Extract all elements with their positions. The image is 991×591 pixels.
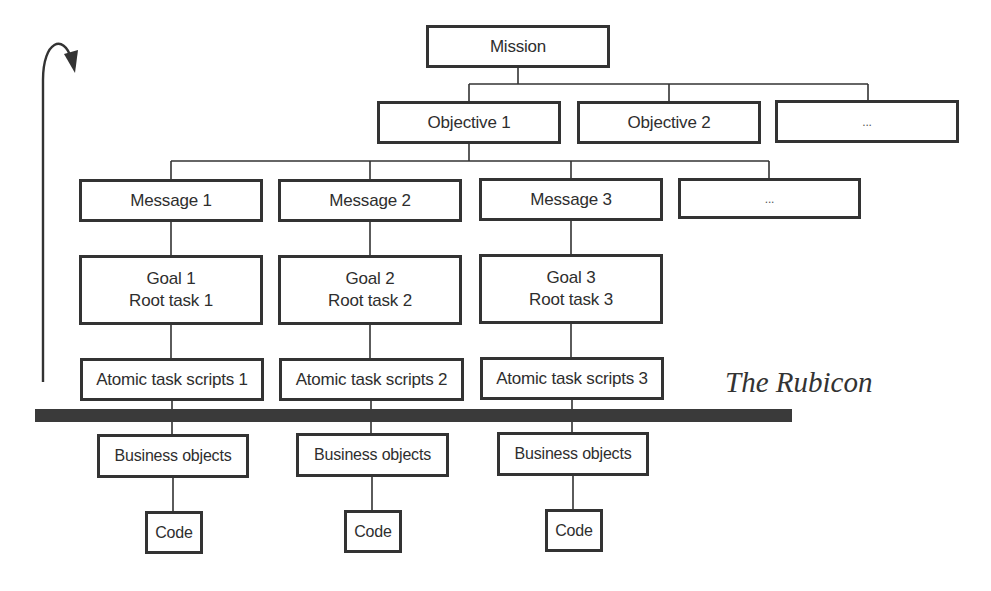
objective-box-1: Objective 1 [377,101,561,144]
goal-box-2: Goal 2 Root task 2 [278,255,462,325]
message-box-1: Message 1 [79,179,263,222]
code-box-1: Code [145,511,203,554]
message-box-2: Message 2 [278,179,462,222]
message-label: Message 3 [530,189,611,211]
objective-box-more: ... [775,100,959,143]
objective-box-2: Objective 2 [577,101,761,144]
root-task-label: Root task 1 [129,290,213,312]
business-objects-box-2: Business objects [296,433,449,477]
objective-label: ... [862,111,871,133]
business-objects-box-1: Business objects [97,434,249,478]
message-label: Message 2 [329,190,410,212]
atomic-scripts-box-3: Atomic task scripts 3 [480,357,664,400]
atomic-scripts-box-1: Atomic task scripts 1 [80,358,264,401]
atomic-scripts-label: Atomic task scripts 2 [296,369,448,391]
code-box-2: Code [344,510,402,553]
message-box-3: Message 3 [479,178,663,221]
rubicon-divider [35,409,792,422]
goal-label: Goal 2 [346,268,395,290]
code-label: Code [555,520,592,542]
code-label: Code [354,521,391,543]
objective-label: Objective 2 [628,112,711,134]
root-task-label: Root task 2 [328,290,412,312]
mission-box: Mission [426,25,610,68]
business-objects-label: Business objects [115,445,232,467]
message-label: Message 1 [130,190,211,212]
feedback-arrow-icon [43,44,78,382]
business-objects-label: Business objects [314,444,431,466]
goal-label: Goal 3 [547,267,596,289]
atomic-scripts-label: Atomic task scripts 3 [496,368,648,390]
message-box-more: ... [678,178,861,219]
atomic-scripts-box-2: Atomic task scripts 2 [279,358,464,401]
goal-box-3: Goal 3 Root task 3 [479,254,663,324]
mission-label: Mission [490,36,546,58]
message-label: ... [765,188,774,210]
goal-label: Goal 1 [147,268,196,290]
code-box-3: Code [545,509,603,552]
atomic-scripts-label: Atomic task scripts 1 [96,369,248,391]
root-task-label: Root task 3 [529,289,613,311]
business-objects-label: Business objects [515,443,632,465]
rubicon-label: The Rubicon [725,366,872,399]
code-label: Code [155,522,192,544]
goal-box-1: Goal 1 Root task 1 [79,255,263,325]
objective-label: Objective 1 [428,112,511,134]
business-objects-box-3: Business objects [497,432,649,476]
